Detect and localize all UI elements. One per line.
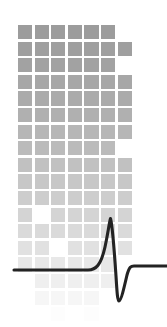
ecg-waveform-layer [0, 0, 167, 327]
ecg-pulse-logo [0, 0, 167, 327]
ecg-qrs-spike-path [14, 219, 167, 302]
